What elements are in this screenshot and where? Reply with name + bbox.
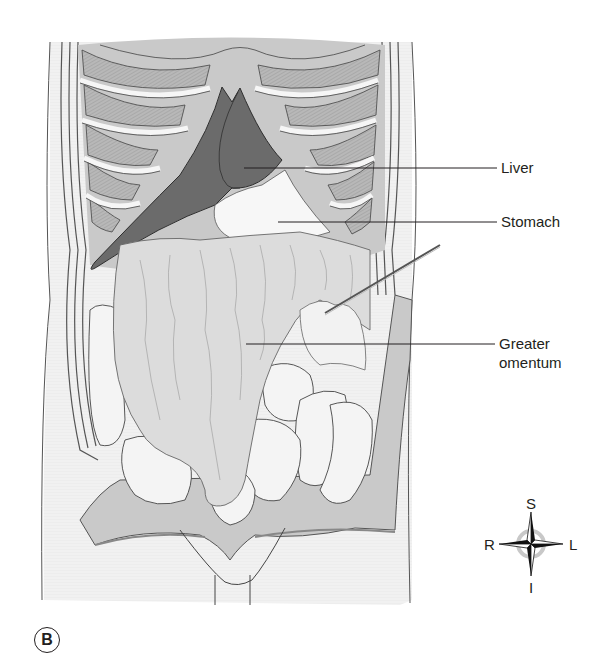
label-liver: Liver [501,159,534,177]
orientation-compass-icon [499,512,563,576]
label-greater-omentum-line1: Greater [499,335,550,353]
panel-letter-badge: B [34,627,60,653]
compass-left: L [569,537,577,553]
label-stomach: Stomach [501,213,560,231]
compass-superior: S [526,496,536,512]
compass-right: R [484,537,495,553]
compass-inferior: I [529,580,533,596]
label-greater-omentum-line2: omentum [499,354,562,372]
